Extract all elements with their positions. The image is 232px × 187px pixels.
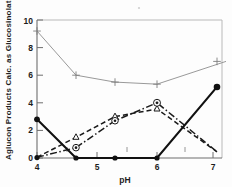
y-tick-label-8: 8 bbox=[28, 43, 33, 53]
x-tick-label-7: 7 bbox=[211, 162, 216, 172]
y-tick-label-2: 2 bbox=[28, 125, 33, 135]
scan-speck bbox=[138, 7, 140, 9]
x-tick-label-4: 4 bbox=[35, 162, 40, 172]
chart-svg: 0 2 4 6 8 10 4 5 6 7 pH Aglucon Products… bbox=[0, 0, 232, 187]
x-tick-label-5: 5 bbox=[95, 162, 100, 172]
y-tick-label-6: 6 bbox=[28, 70, 33, 80]
y-tick-label-0: 0 bbox=[28, 153, 33, 163]
x-axis-title: pH bbox=[119, 175, 130, 185]
y-tick-label-10: 10 bbox=[24, 16, 34, 26]
y-tick-label-4: 4 bbox=[28, 98, 33, 108]
y-axis-title: Aglucon Products Calc. as Glucosinolate … bbox=[4, 0, 13, 160]
chart-figure: 0 2 4 6 8 10 4 5 6 7 pH Aglucon Products… bbox=[0, 0, 232, 187]
x-tick-label-6: 6 bbox=[155, 162, 160, 172]
